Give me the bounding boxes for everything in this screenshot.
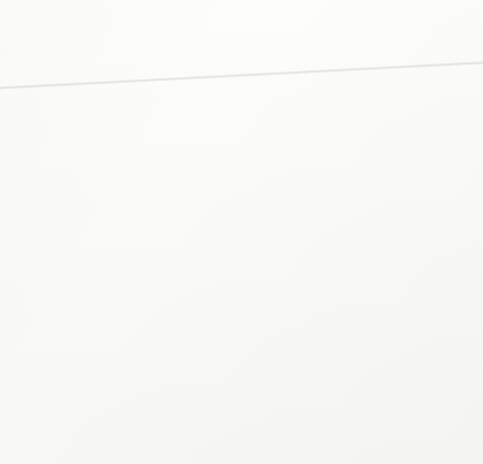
panel-border-45-days xyxy=(20,243,233,434)
panel-border-25-30-days xyxy=(256,16,466,206)
panel-border-60-days xyxy=(256,243,466,434)
panel-caption-45-days: 45 days pregnant xyxy=(20,442,233,451)
panel-border-nonpregnant xyxy=(20,16,233,206)
panel-caption-nonpregnant: Nonpregnant xyxy=(20,214,233,223)
panel-caption-25-30-days: 25 to 30 days pregnant xyxy=(256,214,466,223)
panel-caption-60-days: 60 days pregnant xyxy=(256,442,466,451)
figure-panel-grid: Nonpregnant xyxy=(0,0,483,464)
